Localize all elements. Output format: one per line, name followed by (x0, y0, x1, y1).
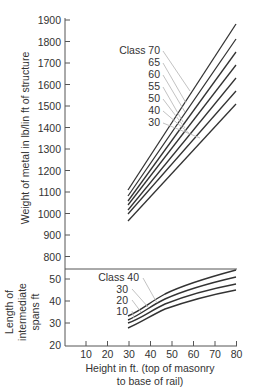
bottom-y-title-line3: spans ft (29, 294, 41, 331)
tick-x-20: 20 (102, 348, 114, 360)
bottom-y-title-line2: intermediate (16, 283, 28, 341)
legend-class-70: Class 70 (119, 44, 160, 56)
tick-20: 20 (49, 339, 61, 351)
tick-x-40: 40 (145, 348, 157, 360)
chart-figure: 1900 1800 1700 1600 1500 1400 1300 1200 … (0, 0, 254, 387)
top-leader-lines (163, 51, 200, 138)
line-class-55 (128, 65, 236, 205)
legend-40: 40 (148, 104, 160, 116)
tick-1200: 1200 (38, 165, 62, 177)
tick-1800: 1800 (38, 36, 62, 48)
curve-class-10 (128, 290, 236, 328)
line-class-65 (128, 39, 236, 196)
tick-x-50: 50 (166, 348, 178, 360)
tick-1300: 1300 (38, 143, 62, 155)
legend-class-40: Class 40 (98, 271, 139, 283)
tick-x-30: 30 (123, 348, 135, 360)
x-axis-title-line2: to base of rail) (117, 375, 184, 387)
top-y-axis-title: Weight of metal in lb/lin ft of structur… (19, 52, 31, 225)
tick-1900: 1900 (38, 14, 62, 26)
tick-1100: 1100 (38, 186, 61, 198)
legend-60: 60 (148, 68, 160, 80)
bottom-y-axis-title: Length of intermediate spans ft (3, 283, 41, 341)
line-class-30 (128, 104, 236, 221)
line-class-60 (128, 52, 236, 201)
bottom-legend: Class 40 30 20 10 (98, 271, 139, 317)
x-ticks: 10 20 30 40 50 60 70 80 (80, 341, 242, 360)
legend-50: 50 (148, 92, 160, 104)
legend-10-b: 10 (116, 305, 128, 317)
legend-30: 30 (148, 116, 160, 128)
bottom-y-title-line1: Length of (3, 290, 15, 334)
tick-800: 800 (43, 251, 61, 263)
legend-65: 65 (148, 56, 160, 68)
tick-1000: 1000 (38, 208, 62, 220)
bottom-y-ticks: 50 40 30 20 (49, 273, 70, 351)
x-axis-title-line1: Height in ft. (top of masonry (86, 362, 216, 374)
tick-1700: 1700 (38, 57, 62, 69)
tick-900: 900 (43, 229, 61, 241)
tick-1600: 1600 (38, 79, 62, 91)
tick-x-70: 70 (209, 348, 221, 360)
tick-x-10: 10 (80, 348, 92, 360)
legend-55: 55 (148, 80, 160, 92)
line-class-40 (128, 91, 236, 214)
tick-50: 50 (49, 273, 61, 285)
tick-30: 30 (49, 317, 61, 329)
tick-1500: 1500 (38, 100, 62, 112)
bottom-series-lines (128, 270, 236, 328)
top-legend: Class 70 65 60 55 50 40 30 (119, 44, 160, 128)
tick-1400: 1400 (38, 122, 62, 134)
tick-x-60: 60 (188, 348, 200, 360)
line-class-50 (128, 78, 236, 210)
tick-x-80: 80 (231, 348, 243, 360)
tick-40: 40 (49, 295, 61, 307)
